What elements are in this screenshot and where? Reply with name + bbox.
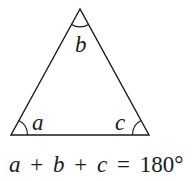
angle-arc-a bbox=[19, 121, 28, 136]
triangle-diagram: b a c a + b + c = 180° bbox=[0, 0, 194, 181]
angle-label-c: c bbox=[115, 110, 125, 135]
angle-label-b: b bbox=[75, 32, 87, 57]
angle-arc-c bbox=[132, 121, 141, 136]
eq-equals: = bbox=[117, 152, 130, 177]
eq-var-b: b bbox=[53, 152, 65, 177]
eq-value: 180° bbox=[140, 152, 184, 177]
eq-var-a: a bbox=[9, 152, 21, 177]
eq-var-c: c bbox=[97, 152, 107, 177]
angle-arc-b bbox=[72, 25, 89, 27]
angle-label-a: a bbox=[32, 110, 44, 135]
eq-plus-2: + bbox=[74, 152, 87, 177]
angle-sum-equation: a + b + c = 180° bbox=[9, 152, 183, 177]
eq-plus-1: + bbox=[30, 152, 43, 177]
